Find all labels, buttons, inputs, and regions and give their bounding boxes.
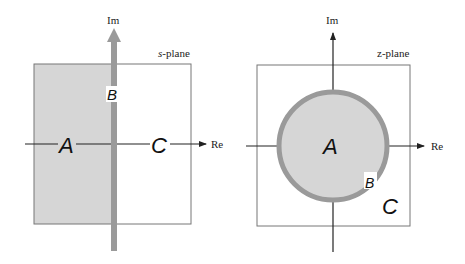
z-plane-panel: Im Re z-plane A B C	[246, 14, 443, 252]
s-plane-region-a: A	[57, 133, 74, 158]
s-plane-im-arrowhead-icon	[107, 28, 121, 42]
s-to-z-mapping-diagram: Im Re s-plane B A C Im Re z-plane A B C	[0, 0, 465, 264]
s-plane-im-label: Im	[107, 14, 120, 26]
s-plane-region-c: C	[151, 133, 167, 158]
z-plane-region-c: C	[382, 194, 398, 219]
s-plane-re-label: Re	[211, 138, 223, 150]
s-plane-panel: Im Re s-plane B A C	[25, 14, 223, 251]
z-plane-region-a: A	[321, 134, 338, 159]
z-plane-title: z-plane	[377, 47, 409, 59]
z-plane-re-label: Re	[431, 140, 443, 152]
s-plane-im-axis-stripe	[111, 40, 117, 251]
s-plane-title: s-plane	[158, 47, 190, 59]
s-plane-region-b: B	[107, 86, 117, 103]
z-plane-region-b: B	[365, 175, 374, 191]
z-plane-im-label: Im	[326, 14, 339, 26]
